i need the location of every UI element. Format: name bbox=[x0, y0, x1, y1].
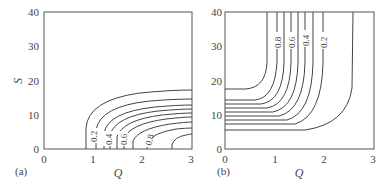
xtick-b-1: 1 bbox=[272, 153, 278, 165]
contour-label-a-0.6: 0.6 bbox=[119, 133, 129, 145]
xtick-b-0: 0 bbox=[222, 153, 228, 165]
ytick-a-0: 0 bbox=[34, 143, 40, 155]
xtick-a-1: 1 bbox=[90, 153, 96, 165]
contour-plot-b: 0 10 20 30 40 0 1 2 3 Q (b) 0.8 0.6 0.4 … bbox=[195, 0, 390, 187]
xtick-b-2: 2 bbox=[321, 153, 327, 165]
contour-label-a-0.8: 0.8 bbox=[143, 133, 156, 147]
ytick-b-40: 40 bbox=[211, 6, 223, 18]
plot-frame-a bbox=[44, 12, 192, 149]
contour-label-b-0.2: 0.2 bbox=[319, 37, 329, 48]
ytick-a-10: 10 bbox=[28, 109, 40, 121]
contour-label-a-0.4: 0.4 bbox=[104, 133, 114, 145]
ytick-b-20: 20 bbox=[211, 75, 223, 87]
xtick-a-2: 2 bbox=[139, 153, 145, 165]
contour-label-a-0.2: 0.2 bbox=[89, 131, 99, 142]
x-axis-label-a: Q bbox=[114, 166, 123, 180]
contour-lines-b bbox=[225, 12, 353, 130]
contour-label-b-0.4: 0.4 bbox=[301, 34, 311, 46]
ytick-b-30: 30 bbox=[211, 40, 223, 52]
ytick-a-40: 40 bbox=[28, 6, 40, 18]
contour-plot-a: 0 10 20 30 40 0 1 2 3 Q S (a) 0.2 0.4 0.… bbox=[0, 0, 195, 187]
contour-label-b-0.8: 0.8 bbox=[273, 36, 283, 48]
ytick-b-10: 10 bbox=[211, 109, 223, 121]
y-axis-label-a: S bbox=[11, 78, 25, 84]
xtick-a-3: 3 bbox=[188, 153, 194, 165]
contour-lines-a bbox=[86, 90, 192, 149]
ytick-a-20: 20 bbox=[28, 75, 40, 87]
xtick-a-0: 0 bbox=[41, 153, 47, 165]
contour-label-b-0.6: 0.6 bbox=[287, 36, 297, 48]
ytick-a-30: 30 bbox=[28, 40, 40, 52]
panel-label-a: (a) bbox=[15, 165, 28, 178]
panel-label-b: (b) bbox=[217, 165, 230, 178]
xtick-b-3: 3 bbox=[370, 153, 376, 165]
x-axis-label-b: Q bbox=[295, 166, 304, 180]
